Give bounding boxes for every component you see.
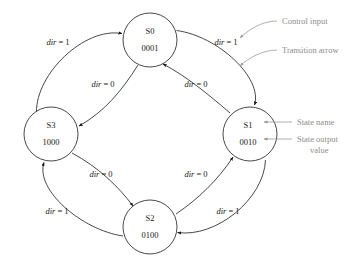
transition-arrow-s3-s2 bbox=[72, 153, 133, 206]
state-node-s0[interactable] bbox=[123, 13, 177, 67]
annotation-transition-arrow: Transition arrow bbox=[282, 45, 339, 55]
state-output-s1: 0010 bbox=[240, 137, 257, 147]
transition-label-s2-s1: dir = 0 bbox=[184, 169, 207, 179]
state-output-s3: 1000 bbox=[43, 137, 60, 147]
leader-line-transition-arrow bbox=[240, 50, 277, 66]
annotation-state-name: State name bbox=[297, 117, 335, 127]
annotation-state-output-value: State output bbox=[297, 134, 338, 144]
leader-line-control-input bbox=[240, 21, 277, 38]
transition-label-s1-s0: dir = 0 bbox=[184, 79, 207, 89]
transition-label-s1-s2: dir = 1 bbox=[216, 206, 239, 216]
transition-label-s3-s2: dir = 0 bbox=[89, 169, 112, 179]
state-name-s2: S2 bbox=[146, 213, 155, 223]
transition-label-s2-s3: dir = 1 bbox=[45, 206, 68, 216]
transition-label-s0-s1: dir = 1 bbox=[214, 37, 237, 47]
transition-label-s0-s3: dir = 0 bbox=[91, 79, 114, 89]
state-node-s2[interactable] bbox=[123, 200, 177, 254]
annotation-state-output-value-line2: value bbox=[310, 145, 329, 155]
state-name-s3: S3 bbox=[47, 120, 56, 130]
state-output-s2: 0100 bbox=[142, 230, 159, 240]
state-diagram-canvas: S0 0001 S1 0010 S2 0100 S3 1000 dir = 0 … bbox=[0, 0, 349, 259]
state-name-s0: S0 bbox=[146, 26, 155, 36]
state-node-s3[interactable] bbox=[24, 107, 78, 161]
annotation-control-input: Control input bbox=[282, 16, 328, 26]
state-output-s0: 0001 bbox=[142, 43, 159, 53]
transition-label-s3-s0: dir = 1 bbox=[46, 37, 69, 47]
state-diagram-svg: S0 0001 S1 0010 S2 0100 S3 1000 dir = 0 … bbox=[0, 0, 349, 259]
state-name-s1: S1 bbox=[244, 120, 253, 130]
state-node-s1[interactable] bbox=[223, 107, 277, 161]
transition-arrow-s0-s3 bbox=[79, 65, 138, 126]
